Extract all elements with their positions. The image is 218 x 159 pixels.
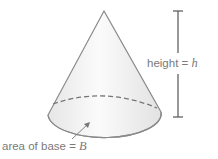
base-label-text: area of base = — [2, 140, 79, 152]
height-label-text: height = — [147, 57, 191, 69]
cone-diagram — [0, 0, 218, 159]
cone-surface — [48, 11, 161, 138]
height-label: height = h — [147, 56, 198, 71]
base-variable: B — [79, 139, 87, 153]
base-area-label: area of base = B — [2, 139, 87, 154]
height-variable: h — [191, 56, 197, 70]
